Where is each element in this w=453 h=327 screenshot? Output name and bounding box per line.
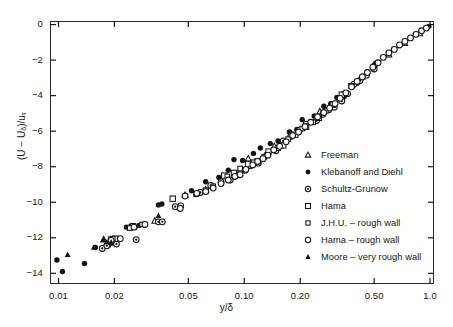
- x-tick-label: 0.05: [166, 290, 210, 301]
- legend-label: Klebanoff and Diehl: [321, 167, 403, 177]
- x-tick-label: 0.20: [278, 290, 322, 301]
- y-tick-label: −2: [9, 54, 43, 65]
- data-point-circle-filled: [306, 169, 311, 174]
- legend-label: Hama – rough wall: [321, 235, 399, 245]
- legend-item-hama-rough-wall: Hama – rough wall: [300, 231, 421, 248]
- y-axis-label: (U − Uδ)/uτ: [16, 76, 28, 196]
- y-tick-label: −10: [9, 196, 43, 207]
- chart-legend: FreemanKlebanoff and DiehlSchultz-Grunow…: [300, 146, 421, 265]
- data-point-circle-dot: [305, 186, 310, 191]
- legend-label: Hama: [321, 201, 346, 211]
- legend-item-klebanoff-and-diehl: Klebanoff and Diehl: [300, 163, 421, 180]
- legend-item-moore-very-rough-wall: Moore – very rough wall: [300, 248, 421, 265]
- x-tick-label: 0.02: [92, 290, 136, 301]
- legend-item-freeman: Freeman: [300, 146, 421, 163]
- x-tick-label: 0.10: [222, 290, 266, 301]
- data-point-diamond-open: [305, 237, 310, 242]
- y-axis-label-text: (U − Uδ)/uτ: [16, 112, 27, 160]
- legend-marker-circle-dot-icon: [300, 183, 316, 195]
- legend-item-hama: Hama: [300, 197, 421, 214]
- y-tick-label: −14: [9, 267, 43, 278]
- legend-item-j-h-u-rough-wall: J.H.U. – rough wall: [300, 214, 421, 231]
- legend-label: J.H.U. – rough wall: [321, 218, 401, 228]
- data-point-square-open-small: [306, 220, 310, 224]
- legend-item-schultz-grunow: Schultz-Grunow: [300, 180, 421, 197]
- legend-marker-diamond-open-icon: [300, 234, 316, 246]
- legend-label: Moore – very rough wall: [321, 252, 421, 262]
- data-point-triangle-filled: [305, 254, 310, 259]
- x-tick-label: 0.01: [37, 290, 81, 301]
- legend-marker-square-open-small-icon: [300, 217, 316, 229]
- legend-marker-triangle-filled-icon: [300, 251, 316, 263]
- y-tick-label: −12: [9, 231, 43, 242]
- data-point-square-open: [306, 203, 311, 208]
- legend-marker-triangle-open-icon: [300, 149, 316, 161]
- y-tick-label: 0: [9, 18, 43, 29]
- x-axis-label-text: y/δ: [220, 302, 233, 313]
- data-point-triangle-open: [305, 152, 310, 157]
- legend-label: Freeman: [321, 150, 359, 160]
- legend-marker-circle-filled-icon: [300, 166, 316, 178]
- legend-label: Schultz-Grunow: [321, 184, 388, 194]
- x-tick-label: 1.0: [408, 290, 452, 301]
- x-tick-label: 0.50: [352, 290, 396, 301]
- velocity-defect-chart: 0−2−4−6−8−10−12−140.010.020.050.100.200.…: [0, 0, 453, 327]
- x-axis-label: y/δ: [0, 302, 453, 313]
- legend-marker-square-open-icon: [300, 200, 316, 212]
